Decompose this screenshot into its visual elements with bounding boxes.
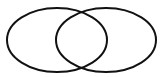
venn-diagram (0, 0, 163, 77)
